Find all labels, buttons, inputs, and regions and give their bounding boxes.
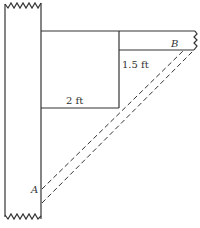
horizontal-dimension-label: 2 ft — [66, 95, 83, 106]
strut-upper-edge — [42, 51, 183, 189]
beam-end-break — [194, 31, 197, 50]
point-b-label: B — [170, 38, 178, 49]
vertical-dimension-label: 1.5 ft — [122, 59, 149, 70]
point-a-label: A — [30, 184, 38, 195]
wall-top-break — [5, 3, 41, 8]
beam-bracket-diagram: B A 1.5 ft 2 ft — [0, 0, 200, 228]
dashed-strut-ab — [42, 51, 193, 203]
strut-lower-edge — [42, 51, 193, 203]
wall-bottom-break — [5, 214, 41, 219]
